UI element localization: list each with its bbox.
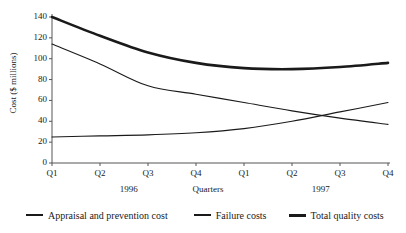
legend-item-total-quality-costs[interactable]: Total quality costs [289,210,384,221]
chart-plot-area [0,0,406,233]
y-axis-tick-label: 60 [21,95,47,104]
y-axis-tick-label: 100 [21,54,47,63]
legend-swatch-icon [194,214,211,216]
x-axis-tick-label: Q2 [85,168,115,178]
x-axis-group-label: 1997 [296,184,346,194]
x-axis-tick-label: Q3 [133,168,163,178]
legend-label: Appraisal and prevention cost [48,210,168,221]
x-axis-tick-label: Q3 [325,168,355,178]
y-axis-tick-label: 40 [21,116,47,125]
legend-swatch-icon [289,214,306,217]
legend-swatch-icon [26,214,43,216]
chart-legend: Appraisal and prevention cost Failure co… [26,207,398,223]
legend-item-failure-costs[interactable]: Failure costs [194,210,267,221]
x-axis-tick-label: Q4 [181,168,211,178]
y-axis-tick-label: 0 [21,158,47,167]
legend-label: Failure costs [216,210,267,221]
y-axis-tick-label: 120 [21,33,47,42]
x-axis-tick-label: Q2 [277,168,307,178]
x-axis-tick-label: Q1 [37,168,67,178]
y-axis-tick-label: 140 [21,12,47,21]
legend-item-appraisal-and-prevention-cost[interactable]: Appraisal and prevention cost [26,210,168,221]
legend-label: Total quality costs [311,210,384,221]
series-line [52,103,388,137]
x-axis-tick-label: Q4 [373,168,403,178]
x-axis-group-label: 1996 [104,184,154,194]
series-line [52,17,388,69]
line-chart: 020406080100120140 Q1Q2Q3Q4Q1Q2Q3Q4 1996… [0,0,406,233]
y-axis-title: Cost ($ millions) [8,33,18,133]
x-axis-tick-label: Q1 [229,168,259,178]
x-axis-title: Quarters [178,184,238,194]
y-axis-tick-label: 20 [21,137,47,146]
y-axis-tick-label: 80 [21,75,47,84]
